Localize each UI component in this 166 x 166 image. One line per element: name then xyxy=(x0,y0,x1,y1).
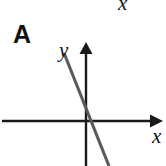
cropped-x-axis-label-above: x xyxy=(117,0,128,15)
figure-panel-a: x A y x xyxy=(0,0,166,166)
coordinate-axes-plot: x A y x xyxy=(0,0,166,166)
x-axis-label: x xyxy=(151,124,162,148)
y-axis-arrowhead xyxy=(80,42,93,54)
panel-label-a: A xyxy=(13,20,31,48)
y-axis-label: y xyxy=(57,38,69,62)
